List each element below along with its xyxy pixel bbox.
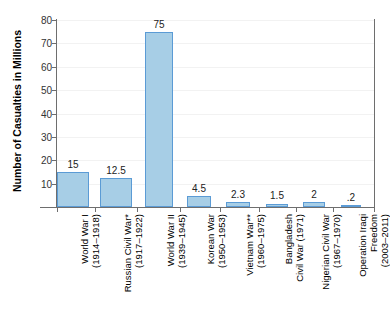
- x-axis-label: World War I(1914–1918): [79, 214, 93, 306]
- x-axis-label: Vietnam War**(1960–1975): [244, 214, 258, 306]
- x-tick-mark: [374, 207, 375, 212]
- x-axis-label-line: (1967–1970): [331, 214, 342, 306]
- y-tick-label: 10: [28, 178, 52, 189]
- x-axis-label-line: Vietnam War**: [244, 214, 255, 306]
- bar[interactable]: [145, 32, 173, 207]
- plot-area: [57, 20, 375, 207]
- bar-value-label: 2: [311, 189, 317, 200]
- x-tick-mark: [57, 207, 58, 212]
- x-tick-mark: [95, 207, 96, 212]
- bar[interactable]: [341, 205, 361, 207]
- bar[interactable]: [187, 196, 211, 207]
- y-tick-label: 60: [28, 61, 52, 72]
- x-axis-label: Russian Civil War*(1917–1922): [122, 214, 136, 306]
- bar[interactable]: [100, 178, 132, 207]
- bar-chart: Number of Casualties in Millions 8070605…: [0, 0, 390, 315]
- bar-value-label: 12.5: [106, 165, 125, 176]
- x-axis-label: Korean War(1950–1953): [205, 214, 219, 306]
- bar[interactable]: [57, 172, 89, 207]
- bar[interactable]: [303, 202, 325, 207]
- x-axis-line: [40, 207, 375, 208]
- x-axis-label: Nigerian Civil War(1967–1970): [320, 214, 334, 306]
- bar[interactable]: [226, 202, 250, 207]
- x-axis-label: World War II(1939–1945): [165, 214, 179, 306]
- y-tick-label: 20: [28, 155, 52, 166]
- bar-value-label: 4.5: [192, 183, 206, 194]
- x-axis-label-line: (1939–1945): [176, 214, 187, 306]
- bar-value-label: 75: [153, 19, 164, 30]
- x-tick-mark: [220, 207, 221, 212]
- x-axis-label-line: (1914–1918): [90, 214, 101, 306]
- x-tick-mark: [180, 207, 181, 212]
- x-axis-label-line: Russian Civil War*: [122, 214, 133, 306]
- x-axis-label: Operation IraqiFreedom(2003–2011): [357, 214, 371, 306]
- x-axis-label-line: (1960–1975): [255, 214, 266, 306]
- x-axis-label-line: World War I: [79, 214, 90, 306]
- x-tick-mark: [296, 207, 297, 212]
- x-axis-label-line: Operation Iraqi: [357, 214, 368, 306]
- bar[interactable]: [266, 204, 288, 208]
- x-tick-mark: [137, 207, 138, 212]
- y-tick-label: 70: [28, 38, 52, 49]
- bar-value-label: 15: [67, 159, 78, 170]
- x-axis-label-line: Nigerian Civil War: [320, 214, 331, 306]
- y-tick-label: 80: [28, 15, 52, 26]
- y-tick-label: 40: [28, 108, 52, 119]
- x-axis-label-line: Korean War: [205, 214, 216, 306]
- bar-value-label: .2: [347, 192, 355, 203]
- x-tick-mark: [259, 207, 260, 212]
- y-axis-title: Number of Casualties in Millions: [11, 26, 23, 196]
- y-tick-label: 30: [28, 131, 52, 142]
- bar-value-label: 2.3: [231, 189, 245, 200]
- x-axis-label-line: (2003–2011): [379, 214, 390, 306]
- x-axis-label-line: Civil War (1971): [294, 214, 305, 306]
- x-axis-label-line: (1917–1922): [133, 214, 144, 306]
- x-axis-label-line: (1950–1953): [216, 214, 227, 306]
- bar-value-label: 1.5: [270, 190, 284, 201]
- x-axis-label-line: Freedom: [368, 214, 379, 306]
- x-axis-label-line: World War II: [165, 214, 176, 306]
- x-axis-label-line: Bangladesh: [283, 214, 294, 306]
- y-tick-label: 50: [28, 85, 52, 96]
- x-tick-mark: [333, 207, 334, 212]
- x-axis-label: BangladeshCivil War (1971): [283, 214, 297, 306]
